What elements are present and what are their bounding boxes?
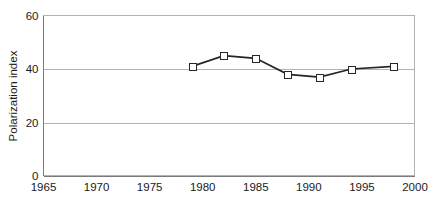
data-point-1988	[285, 72, 292, 79]
polarization-index-line-chart: 0204060 19651970197519801985199019952000…	[0, 0, 433, 207]
x-tick-label-1965: 1965	[31, 181, 57, 193]
data-point-1994	[349, 67, 356, 74]
chart-figure: 0204060 19651970197519801985199019952000…	[0, 0, 433, 207]
y-tick-label-60: 60	[26, 10, 39, 22]
x-tick-label-2000: 2000	[402, 181, 428, 193]
data-point-1982	[221, 53, 228, 60]
data-point-1991	[317, 75, 324, 82]
x-tick-label-1995: 1995	[349, 181, 375, 193]
x-tick-label-1975: 1975	[137, 181, 163, 193]
x-tick-label-1970: 1970	[84, 181, 110, 193]
y-tick-label-40: 40	[26, 63, 39, 75]
data-point-1985	[253, 56, 260, 63]
y-axis-title: Polarization index	[7, 50, 19, 141]
y-tick-label-20: 20	[26, 117, 39, 129]
x-tick-label-1985: 1985	[243, 181, 269, 193]
data-point-1979	[190, 64, 197, 71]
data-point-1998	[391, 64, 398, 71]
x-tick-label-1990: 1990	[296, 181, 322, 193]
x-tick-label-1980: 1980	[190, 181, 216, 193]
